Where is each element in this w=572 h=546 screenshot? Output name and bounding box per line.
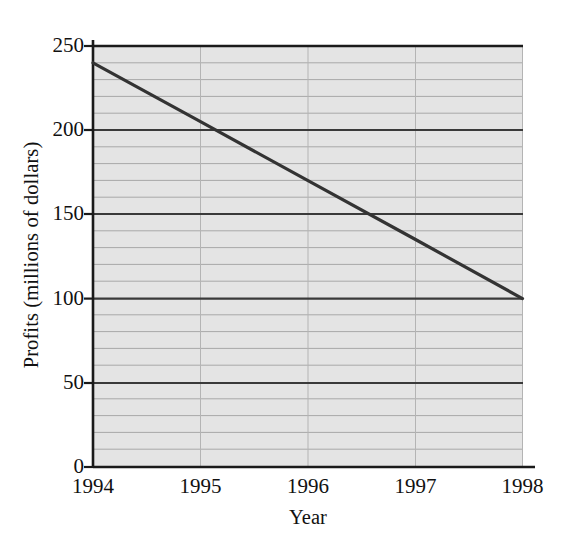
x-tick-label: 1996	[263, 473, 353, 499]
plot-area	[0, 0, 572, 546]
x-tick-label: 1998	[478, 473, 568, 499]
x-tick-label: 1994	[48, 473, 138, 499]
x-axis-tick-labels: 1994 1995 1996 1997 1998	[0, 473, 572, 503]
x-tick-label: 1995	[156, 473, 246, 499]
y-axis-ticks	[84, 46, 93, 467]
x-tick-label: 1997	[371, 473, 461, 499]
chart-figure: Profits (millions of dollars) 250 200 15…	[0, 0, 572, 546]
x-axis-title: Year	[93, 506, 523, 529]
